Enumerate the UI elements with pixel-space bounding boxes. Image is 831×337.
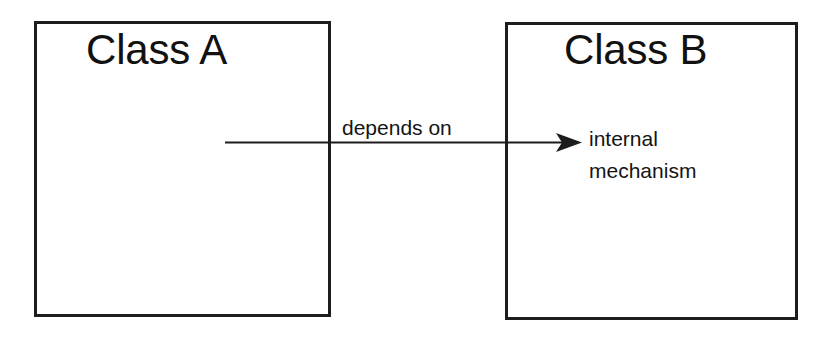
internal-mechanism-label: internal mechanism bbox=[589, 123, 696, 187]
class-a-title: Class A bbox=[86, 29, 227, 71]
depends-on-label: depends on bbox=[342, 117, 452, 138]
class-b-title: Class B bbox=[564, 29, 707, 71]
diagram-canvas: Class A Class B depends on internal mech… bbox=[0, 0, 831, 337]
